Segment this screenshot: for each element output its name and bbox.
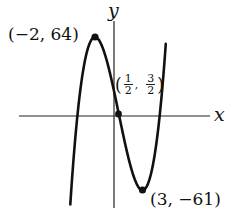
y-axis-label: y <box>108 1 119 20</box>
open-paren: ( <box>115 75 122 94</box>
min-point-label: (3, −61) <box>150 191 221 208</box>
cubic-curve <box>70 37 165 204</box>
y-denominator: 2 <box>147 85 154 96</box>
x-fraction: 1 2 <box>124 73 133 96</box>
inflection-point-label: ( 1 2 , 3 2 ) <box>115 73 164 96</box>
max-point-label: (−2, 64) <box>8 26 79 43</box>
y-fraction: 3 2 <box>146 73 155 96</box>
x-denominator: 2 <box>125 85 132 96</box>
min-point-dot <box>139 186 146 193</box>
inflection-point-dot <box>115 111 122 118</box>
close-paren: ) <box>157 75 164 94</box>
x-axis-label: x <box>214 105 225 124</box>
separator: , <box>135 79 139 90</box>
max-point-dot <box>91 33 98 40</box>
